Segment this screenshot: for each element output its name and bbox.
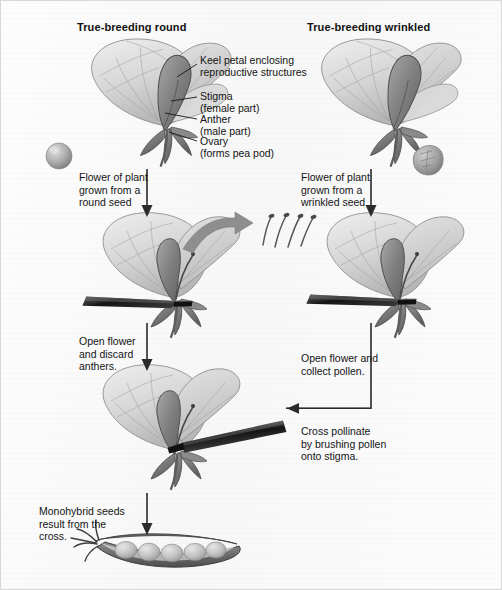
caption-result: Monohybrid seeds result from the cross. [39, 505, 125, 543]
round-pea-seed [46, 143, 72, 169]
figure-canvas: True-breeding round True-breeding wrinkl… [0, 0, 502, 590]
discard-arrow [183, 212, 253, 253]
anther-heads [268, 212, 317, 220]
flower-pollen-collection [327, 213, 464, 337]
flower-true-breeding-wrinkled [322, 39, 462, 166]
caption-left-origin: Flower of plant grown from a round seed [79, 171, 148, 209]
pollen-brush [166, 420, 288, 454]
arrow-left-down-2 [142, 323, 153, 371]
caption-right-origin: Flower of plant grown from a wrinkled se… [301, 171, 370, 209]
label-leader-lines [165, 64, 197, 141]
caption-left-emasculate: Open flower and discard anthers. [79, 335, 136, 373]
label-keel-petal: Keel petal enclosing reproductive struct… [200, 54, 307, 79]
forceps-left [80, 272, 193, 332]
label-stigma: Stigma (female part) [200, 90, 260, 115]
forceps-right [304, 270, 417, 330]
heading-true-breeding-round: True-breeding round [77, 21, 186, 33]
flower-cross-pollination [103, 365, 240, 489]
wrinkled-pea-seed [413, 146, 443, 175]
arrow-left-down-3 [142, 493, 153, 535]
caption-cross-pollinate: Cross pollinate by brushing pollen onto … [301, 425, 386, 463]
discarded-anthers [263, 216, 313, 247]
caption-right-collect: Open flower and collect pollen. [301, 352, 378, 377]
label-ovary: Ovary (forms pea pod) [200, 135, 274, 160]
heading-true-breeding-wrinkled: True-breeding wrinkled [307, 21, 430, 33]
flower-emasculation [103, 213, 240, 337]
